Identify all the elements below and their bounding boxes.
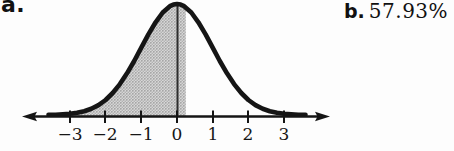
tick-label: 0 — [172, 124, 183, 144]
tick-label: −2 — [92, 124, 117, 144]
normal-distribution-figure: a. b.57.93% −3 −2 −1 — [0, 0, 454, 151]
shaded-region — [56, 4, 186, 117]
tick-label: 3 — [279, 124, 290, 144]
tick-label: 2 — [243, 124, 254, 144]
tick-label: −3 — [57, 124, 82, 144]
tick-label: −1 — [128, 124, 153, 144]
tick-label: 1 — [208, 124, 219, 144]
